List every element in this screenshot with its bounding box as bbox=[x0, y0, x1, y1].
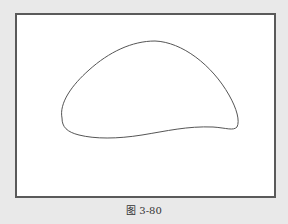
closed-curve-shape bbox=[17, 15, 274, 196]
figure-frame bbox=[15, 13, 276, 198]
figure-caption: 图 3-80 bbox=[0, 202, 288, 217]
